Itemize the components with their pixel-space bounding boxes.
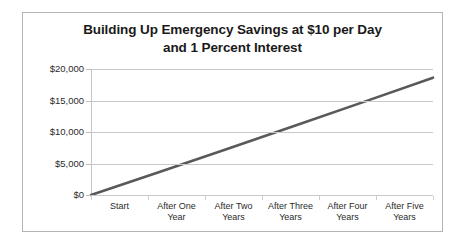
x-axis-label: Start: [91, 201, 148, 212]
x-axis-label-line: After One: [148, 201, 205, 212]
gridline: [91, 101, 433, 102]
x-axis-label: After FiveYears: [376, 201, 433, 223]
x-axis-label-line: Years: [262, 212, 319, 223]
y-axis-labels: $0$5,000$10,000$15,000$20,000: [23, 13, 84, 231]
y-axis-label: $15,000: [20, 96, 84, 106]
x-axis-label-line: Years: [376, 212, 433, 223]
x-axis-label: After ThreeYears: [262, 201, 319, 223]
y-axis-label: $0: [20, 190, 84, 200]
y-axis-tick: [86, 132, 91, 133]
y-axis-tick: [86, 101, 91, 102]
y-axis-tick: [86, 69, 91, 70]
x-axis-tick: [376, 196, 377, 200]
y-axis-tick: [86, 164, 91, 165]
x-axis-tick: [205, 196, 206, 200]
x-axis-tick: [262, 196, 263, 200]
chart-title-line-1: Building Up Emergency Savings at $10 per…: [23, 21, 442, 39]
x-axis-label-line: After Five: [376, 201, 433, 212]
chart-title-line-2: and 1 Percent Interest: [23, 39, 442, 57]
x-axis-labels: StartAfter OneYearAfter TwoYearsAfter Th…: [91, 201, 433, 231]
gridline: [91, 164, 433, 165]
y-axis-label: $20,000: [20, 64, 84, 74]
x-axis-tick: [148, 196, 149, 200]
gridline: [91, 69, 433, 70]
x-axis-label-line: Years: [205, 212, 262, 223]
x-axis-label-line: After Four: [319, 201, 376, 212]
x-axis-tick: [91, 196, 92, 200]
x-axis-label-line: After Two: [205, 201, 262, 212]
x-axis-label-line: Year: [148, 212, 205, 223]
chart-frame: Building Up Emergency Savings at $10 per…: [22, 12, 443, 232]
y-axis-label: $10,000: [20, 127, 84, 137]
gridline: [91, 132, 433, 133]
plot-area: [91, 69, 433, 195]
x-axis-label: After OneYear: [148, 201, 205, 223]
x-axis-tick: [319, 196, 320, 200]
chart-title: Building Up Emergency Savings at $10 per…: [23, 21, 442, 57]
x-axis-tick: [433, 196, 434, 200]
savings-line: [91, 78, 433, 195]
x-axis-label: After FourYears: [319, 201, 376, 223]
y-axis-label: $5,000: [20, 159, 84, 169]
x-axis-label: After TwoYears: [205, 201, 262, 223]
x-axis-label-line: Years: [319, 212, 376, 223]
x-axis-label-line: After Three: [262, 201, 319, 212]
x-axis-label-line: Start: [91, 201, 148, 212]
